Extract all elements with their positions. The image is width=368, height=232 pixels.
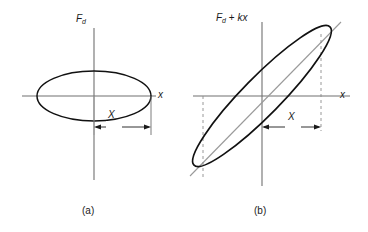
panel-b-arrowhead-right	[314, 124, 321, 129]
panel-a	[22, 28, 156, 180]
panel-b	[180, 13, 350, 186]
panel-a-x-axis-label: x	[158, 90, 163, 100]
figure-canvas	[0, 0, 368, 232]
panel-a-dimension-label: X	[108, 110, 115, 120]
panel-b-dimension-label-backdrop	[285, 121, 301, 133]
panel-b-y-axis-label: Fd + kx	[216, 13, 247, 23]
panel-b-caption: (b)	[254, 205, 266, 216]
panel-a-dimension-label-backdrop	[106, 121, 122, 133]
panel-b-dimension-label: X	[288, 112, 295, 122]
panel-a-y-axis-label: Fd	[76, 14, 86, 24]
panel-a-arrowhead-left	[94, 124, 101, 129]
panel-b-stiffness-diagonal	[190, 22, 341, 176]
panel-b-x-axis-label: x	[340, 90, 345, 100]
hysteresis-figure: Fd x X (a) Fd + kx x X (b)	[0, 0, 368, 232]
panel-b-arrowhead-left	[262, 124, 269, 129]
panel-a-arrowhead-right	[144, 124, 151, 129]
panel-a-caption: (a)	[82, 205, 94, 216]
